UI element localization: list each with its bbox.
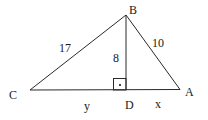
segment-label-da: x	[155, 97, 161, 111]
segment-label-cd: y	[84, 99, 90, 113]
triangle-diagram: B C A D 17 10 8 y x	[0, 0, 208, 120]
side-ca	[30, 90, 180, 91]
vertex-label-d: D	[125, 98, 134, 112]
segment-label-ba: 10	[152, 36, 164, 50]
side-ba	[126, 15, 180, 90]
segment-label-cb: 17	[59, 41, 71, 55]
vertex-label-b: B	[129, 3, 137, 17]
segment-label-bd: 8	[113, 51, 119, 65]
diagram-canvas: B C A D 17 10 8 y x	[0, 0, 208, 120]
right-angle-dot	[119, 84, 121, 86]
side-cb	[30, 15, 126, 90]
vertex-label-a: A	[185, 85, 194, 99]
vertex-label-c: C	[9, 88, 17, 102]
